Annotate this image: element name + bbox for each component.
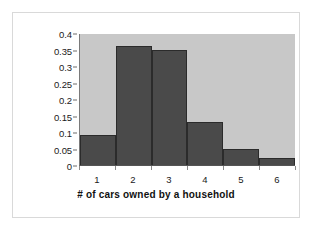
- y-axis-tick-label: 0.15: [54, 111, 72, 122]
- bar: [116, 46, 152, 165]
- y-axis-tick-mark: [73, 149, 77, 150]
- y-axis-tick-label: 0.4: [59, 29, 72, 40]
- bar: [152, 50, 188, 166]
- y-axis-tick-mark: [73, 34, 77, 35]
- y-axis-tick-label: 0.35: [54, 45, 72, 56]
- y-axis-tick-label: 0.1: [59, 128, 72, 139]
- y-axis-tick-label: 0.2: [59, 95, 72, 106]
- y-axis-tick-mark: [73, 50, 77, 51]
- y-axis-tick-label: 0: [67, 161, 72, 172]
- x-axis-tick-label: 2: [115, 167, 151, 185]
- y-axis-tick-mark: [73, 83, 77, 84]
- x-axis-tick-labels: 123456: [79, 167, 295, 185]
- x-axis-tick-label: 5: [223, 167, 259, 185]
- bar: [259, 158, 295, 165]
- chart-figure-frame: Probability 00.050.10.150.20.250.30.350.…: [12, 12, 300, 218]
- x-axis-tick-label: 3: [151, 167, 187, 185]
- y-axis-tick-mark: [73, 133, 77, 134]
- plot-area: [79, 34, 295, 166]
- x-axis-title: # of cars owned by a household: [13, 189, 299, 200]
- y-axis-tick-mark: [73, 67, 77, 68]
- y-axis-tick-mark: [73, 166, 77, 167]
- bar: [80, 135, 116, 165]
- y-axis-tick-mark: [73, 116, 77, 117]
- bar: [223, 149, 259, 166]
- x-axis-tick-mark: [295, 166, 296, 170]
- y-axis-tick-mark: [73, 100, 77, 101]
- x-axis-tick-label: 4: [187, 167, 223, 185]
- y-axis-tick-label: 0.05: [54, 144, 72, 155]
- y-axis-tick-label: 0.3: [59, 62, 72, 73]
- y-axis-tick-label: 0.25: [54, 78, 72, 89]
- bar: [187, 122, 223, 165]
- y-axis-tick-labels: 00.050.10.150.20.250.30.350.4: [13, 34, 77, 166]
- bar-series: [80, 34, 295, 165]
- x-axis-tick-label: 1: [79, 167, 115, 185]
- x-axis-tick-label: 6: [259, 167, 295, 185]
